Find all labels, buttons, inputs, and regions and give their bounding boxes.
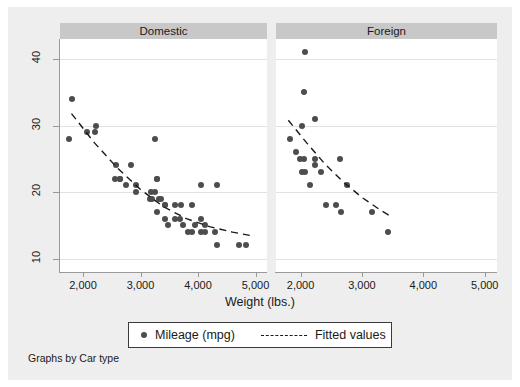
x-tick bbox=[362, 272, 363, 277]
graph-note: Graphs by Car type bbox=[28, 352, 119, 364]
x-tick bbox=[256, 272, 257, 277]
panel-header-domestic: Domestic bbox=[60, 23, 267, 39]
legend: Mileage (mpg) Fitted values bbox=[128, 322, 392, 348]
x-tick bbox=[301, 272, 302, 277]
x-tick bbox=[141, 272, 142, 277]
x-axis-line-domestic bbox=[59, 272, 267, 273]
x-axis-title: Weight (lbs.) bbox=[0, 295, 520, 309]
x-tick-label: 2,000 bbox=[63, 279, 103, 291]
y-tick bbox=[53, 259, 59, 260]
y-tick-label: 10 bbox=[30, 244, 42, 270]
x-tick-label: 4,000 bbox=[178, 279, 218, 291]
y-tick bbox=[53, 192, 59, 193]
y-tick-label: 40 bbox=[30, 44, 42, 70]
legend-dashed-line-icon bbox=[261, 335, 307, 336]
x-tick bbox=[198, 272, 199, 277]
y-axis-line bbox=[59, 39, 60, 272]
legend-label-fitted: Fitted values bbox=[315, 328, 386, 342]
fitted-values-line bbox=[276, 39, 497, 272]
legend-label-mileage: Mileage (mpg) bbox=[155, 328, 235, 342]
plot-area-domestic bbox=[60, 39, 267, 272]
plot-area-foreign bbox=[276, 39, 497, 272]
x-tick bbox=[485, 272, 486, 277]
x-tick bbox=[83, 272, 84, 277]
y-tick-label: 20 bbox=[30, 177, 42, 203]
panel-header-foreign: Foreign bbox=[276, 23, 497, 39]
y-tick-label: 30 bbox=[30, 111, 42, 137]
x-tick bbox=[423, 272, 424, 277]
y-tick bbox=[53, 126, 59, 127]
x-tick-label: 3,000 bbox=[121, 279, 161, 291]
x-tick-label: 3,000 bbox=[342, 279, 382, 291]
x-axis-line-foreign bbox=[275, 272, 497, 273]
y-tick bbox=[53, 59, 59, 60]
fitted-values-line bbox=[60, 39, 267, 272]
x-tick-label: 5,000 bbox=[236, 279, 276, 291]
legend-marker-icon bbox=[141, 332, 147, 338]
x-tick-label: 4,000 bbox=[403, 279, 443, 291]
stata-graph-figure: Domestic Foreign 2,0003,0004,0005,0002,0… bbox=[0, 0, 520, 387]
x-tick-label: 5,000 bbox=[465, 279, 505, 291]
x-tick-label: 2,000 bbox=[281, 279, 321, 291]
